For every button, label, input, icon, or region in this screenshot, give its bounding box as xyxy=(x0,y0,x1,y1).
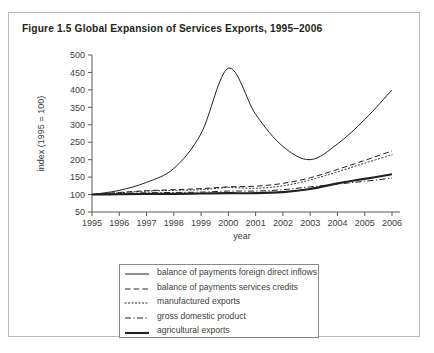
y-tick-label: 50 xyxy=(75,207,85,217)
x-tick-label: 2006 xyxy=(382,218,402,228)
legend-item-label: balance of payments foreign direct inflo… xyxy=(157,268,317,277)
legend-item-label: manufactured exports xyxy=(157,297,240,306)
x-tick-label: 2002 xyxy=(273,218,293,228)
figure-frame: Figure 1.5 Global Expansion of Services … xyxy=(8,12,420,337)
legend-swatch-icon xyxy=(124,295,150,307)
legend-swatch-icon xyxy=(124,281,150,293)
legend-item: gross domestic product xyxy=(120,309,318,324)
x-tick-label: 2005 xyxy=(355,218,375,228)
y-tick-label: 400 xyxy=(70,85,85,95)
y-tick-label: 250 xyxy=(70,137,85,147)
y-axis-title: index (1995 = 100) xyxy=(36,96,46,171)
x-axis-ticks: 1995199619971998199920002001200220032004… xyxy=(82,212,402,228)
y-axis-ticks: 50100150200250300350400450500 xyxy=(70,50,92,217)
y-tick-label: 350 xyxy=(70,103,85,113)
x-tick-label: 1999 xyxy=(191,218,211,228)
legend-swatch-icon xyxy=(124,310,150,322)
legend-item: agricultural exports xyxy=(120,323,318,338)
chart-legend: balance of payments foreign direct inflo… xyxy=(119,264,319,338)
y-tick-label: 450 xyxy=(70,68,85,78)
x-tick-label: 1998 xyxy=(164,218,184,228)
x-tick-label: 1995 xyxy=(82,218,102,228)
series-line xyxy=(92,155,392,195)
x-tick-label: 2004 xyxy=(327,218,347,228)
legend-item-label: agricultural exports xyxy=(157,326,230,335)
legend-item: balance of payments services credits xyxy=(120,280,318,295)
x-axis-title: year xyxy=(233,231,251,241)
legend-swatch-icon xyxy=(124,325,150,337)
y-tick-label: 150 xyxy=(70,172,85,182)
series-line xyxy=(92,68,392,194)
legend-item: balance of payments foreign direct inflo… xyxy=(120,265,318,280)
y-tick-label: 500 xyxy=(70,50,85,60)
x-tick-label: 1997 xyxy=(137,218,157,228)
y-tick-label: 300 xyxy=(70,120,85,130)
y-tick-label: 100 xyxy=(70,190,85,200)
legend-item-label: balance of payments services credits xyxy=(157,283,298,292)
legend-item: manufactured exports xyxy=(120,294,318,309)
legend-item-label: gross domestic product xyxy=(157,312,246,321)
x-tick-label: 2003 xyxy=(300,218,320,228)
x-tick-label: 2000 xyxy=(218,218,238,228)
legend-swatch-icon xyxy=(124,266,150,278)
data-series-group xyxy=(92,68,392,194)
y-tick-label: 200 xyxy=(70,155,85,165)
x-tick-label: 1996 xyxy=(109,218,129,228)
x-tick-label: 2001 xyxy=(246,218,266,228)
